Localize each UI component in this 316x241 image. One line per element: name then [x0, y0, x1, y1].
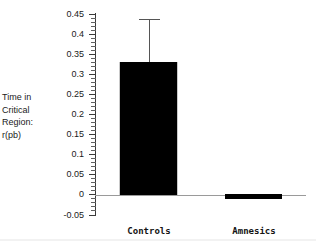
- y-axis-tick-minor: [91, 202, 96, 203]
- y-axis-tick-label: 0.2: [71, 109, 84, 119]
- y-axis-tick-minor: [91, 78, 96, 79]
- y-axis-tick-label: 0.15: [66, 129, 84, 139]
- y-axis-tick-major: [89, 215, 96, 216]
- y-axis-tick-minor: [91, 50, 96, 51]
- error-bar-cap: [139, 19, 160, 20]
- y-axis-tick-minor: [91, 58, 96, 59]
- y-axis-tick-minor: [91, 46, 96, 47]
- y-axis-tick-minor: [91, 18, 96, 19]
- y-axis-tick-label: 0.45: [66, 9, 84, 19]
- y-axis-tick-minor: [91, 118, 96, 119]
- y-axis-tick-label: 0.4: [71, 29, 84, 39]
- plot-area: 0.450.40.350.30.250.20.150.10.050-0.05 C…: [0, 0, 316, 241]
- y-axis-tick-minor: [91, 146, 96, 147]
- y-axis-tick-minor: [91, 198, 96, 199]
- y-axis-tick-minor: [91, 166, 96, 167]
- y-axis-tick-minor: [91, 38, 96, 39]
- bar-controls[interactable]: [120, 62, 177, 195]
- y-axis-tick-label: 0: [79, 189, 84, 199]
- y-axis-tick-minor: [91, 186, 96, 187]
- y-axis-tick-minor: [91, 110, 96, 111]
- y-axis-tick-label: 0.3: [71, 69, 84, 79]
- y-axis-tick-major: [89, 114, 96, 115]
- y-axis-tick-major: [89, 74, 96, 75]
- y-axis-tick-label: 0.1: [71, 149, 84, 159]
- y-axis-tick-minor: [91, 70, 96, 71]
- x-axis-label-amnesics: Amnesics: [232, 226, 275, 236]
- y-axis-tick-minor: [91, 106, 96, 107]
- y-axis-tick-minor: [91, 86, 96, 87]
- y-axis-tick-minor: [91, 158, 96, 159]
- y-axis-tick-minor: [91, 126, 96, 127]
- x-axis-label-controls: Controls: [127, 226, 170, 236]
- y-axis-tick-label: -0.05: [63, 210, 84, 220]
- y-axis-tick-minor: [91, 42, 96, 43]
- y-axis-tick-major: [89, 174, 96, 175]
- y-axis-tick-minor: [91, 66, 96, 67]
- y-axis-tick-minor: [91, 62, 96, 63]
- bar-amnesics[interactable]: [225, 194, 282, 199]
- y-axis-tick-major: [89, 154, 96, 155]
- y-axis-tick-label: 0.05: [66, 169, 84, 179]
- y-axis-tick-label: 0.35: [66, 49, 84, 59]
- y-axis-tick-minor: [91, 162, 96, 163]
- y-axis-tick-minor: [91, 122, 96, 123]
- y-axis-tick-major: [89, 134, 96, 135]
- y-axis-tick-major: [89, 94, 96, 95]
- y-axis-tick-minor: [91, 142, 96, 143]
- y-axis-tick-minor: [91, 22, 96, 23]
- y-axis-tick-minor: [91, 138, 96, 139]
- y-axis-tick-major: [89, 14, 96, 15]
- y-axis-tick-minor: [91, 82, 96, 83]
- y-axis-tick-minor: [91, 170, 96, 171]
- y-axis-tick-minor: [91, 206, 96, 207]
- y-axis-tick-minor: [91, 130, 96, 131]
- bar-outline-right: [177, 62, 178, 195]
- y-axis-tick-minor: [91, 90, 96, 91]
- bar-outline-left: [119, 62, 120, 195]
- y-axis-tick-minor: [91, 150, 96, 151]
- y-axis-tick-minor: [91, 30, 96, 31]
- y-axis-tick-minor: [91, 190, 96, 191]
- y-axis-tick-minor: [91, 178, 96, 179]
- y-axis-tick-major: [89, 54, 96, 55]
- y-axis-tick-label: 0.25: [66, 89, 84, 99]
- chart-figure: Time in Critical Region: r(pb) 0.450.40.…: [0, 0, 316, 241]
- y-axis-tick-minor: [91, 102, 96, 103]
- error-bar-stem: [149, 19, 150, 62]
- y-axis-tick-minor: [91, 26, 96, 27]
- y-axis-tick-minor: [91, 98, 96, 99]
- y-axis-tick-minor: [91, 182, 96, 183]
- y-axis-tick-minor: [91, 210, 96, 211]
- y-axis-tick-major: [89, 34, 96, 35]
